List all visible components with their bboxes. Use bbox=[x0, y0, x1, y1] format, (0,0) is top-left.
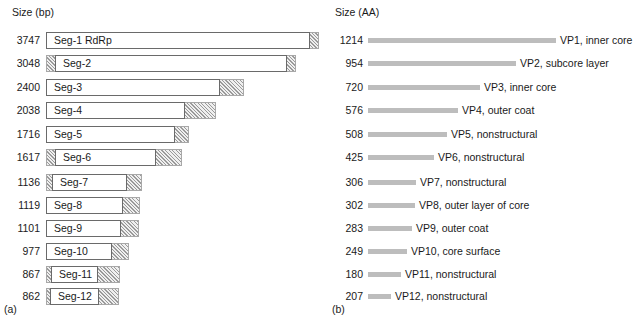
segment-row: 3747Seg-1 RdRp bbox=[0, 30, 330, 50]
protein-name-label: VP4, outer coat bbox=[462, 105, 534, 116]
segment-name-label: Seg-2 bbox=[56, 58, 91, 69]
segment-name-label: Seg-1 RdRp bbox=[47, 35, 112, 46]
protein-row: 425VP6, nonstructural bbox=[330, 147, 634, 167]
protein-name-label: VP6, nonstructural bbox=[438, 152, 524, 163]
segment-bar: Seg-9 bbox=[46, 220, 139, 237]
segment-utr-right bbox=[310, 32, 319, 49]
segment-name-label: Seg-7 bbox=[53, 177, 88, 188]
segment-utr-right bbox=[156, 149, 182, 166]
segment-row: 1617Seg-6 bbox=[0, 147, 330, 167]
segment-size-label: 3048 bbox=[0, 58, 40, 69]
segment-bar: Seg-7 bbox=[46, 174, 142, 191]
segment-utr-right bbox=[98, 266, 120, 283]
segment-orf: Seg-11 bbox=[51, 266, 98, 283]
protein-name-label: VP5, nonstructural bbox=[451, 129, 537, 140]
segment-orf: Seg-8 bbox=[46, 197, 123, 214]
segment-row: 1119Seg-8 bbox=[0, 195, 330, 215]
segment-name-label: Seg-8 bbox=[47, 200, 82, 211]
segment-utr-right bbox=[185, 102, 216, 119]
panel-a-genome-segments: Size (bp) 3747Seg-1 RdRp3048Seg-22400Seg… bbox=[0, 0, 330, 324]
segment-row: 2400Seg-3 bbox=[0, 77, 330, 97]
segment-row: 862Seg-12 bbox=[0, 286, 330, 306]
segment-row: 867Seg-11 bbox=[0, 264, 330, 284]
protein-name-label: VP7, nonstructural bbox=[420, 177, 506, 188]
protein-row: 306VP7, nonstructural bbox=[330, 172, 634, 192]
protein-size-label: 576 bbox=[330, 105, 363, 116]
protein-row: 283VP9, outer coat bbox=[330, 218, 634, 238]
segment-name-label: Seg-10 bbox=[47, 246, 88, 257]
segment-utr-right bbox=[220, 79, 244, 96]
protein-bar bbox=[368, 294, 391, 299]
protein-bar bbox=[368, 38, 556, 43]
segment-size-label: 1136 bbox=[0, 177, 40, 188]
segment-size-label: 3747 bbox=[0, 35, 40, 46]
protein-bar bbox=[368, 226, 412, 231]
segment-size-label: 2038 bbox=[0, 105, 40, 116]
protein-size-label: 249 bbox=[330, 246, 363, 257]
segment-size-label: 977 bbox=[0, 246, 40, 257]
segment-bar: Seg-12 bbox=[46, 288, 119, 305]
segment-orf: Seg-10 bbox=[46, 243, 112, 260]
protein-bar bbox=[368, 180, 416, 185]
protein-name-label: VP2, subcore layer bbox=[520, 58, 609, 69]
protein-size-label: 720 bbox=[330, 82, 363, 93]
protein-row: 302VP8, outer layer of core bbox=[330, 195, 634, 215]
segment-bar: Seg-2 bbox=[46, 55, 296, 72]
protein-bar bbox=[368, 249, 407, 254]
segment-size-label: 867 bbox=[0, 269, 40, 280]
segment-orf: Seg-1 RdRp bbox=[46, 32, 310, 49]
segment-row: 1716Seg-5 bbox=[0, 124, 330, 144]
segment-utr-left bbox=[46, 55, 55, 72]
protein-size-label: 1214 bbox=[330, 35, 363, 46]
segment-bar: Seg-8 bbox=[46, 197, 140, 214]
segment-utr-right bbox=[287, 55, 296, 72]
protein-name-label: VP12, nonstructural bbox=[395, 291, 487, 302]
segment-size-label: 1617 bbox=[0, 152, 40, 163]
segment-bar: Seg-5 bbox=[46, 126, 189, 143]
segment-row: 977Seg-10 bbox=[0, 241, 330, 261]
protein-name-label: VP1, inner core bbox=[560, 35, 632, 46]
panel-b-proteins: Size (AA) 1214VP1, inner core954VP2, sub… bbox=[330, 0, 634, 324]
segment-bar: Seg-1 RdRp bbox=[46, 32, 319, 49]
protein-name-label: VP3, inner core bbox=[484, 82, 556, 93]
panel-b-caption: (b) bbox=[332, 303, 345, 315]
protein-row: 1214VP1, inner core bbox=[330, 30, 634, 50]
protein-bar bbox=[368, 108, 458, 113]
segment-row: 3048Seg-2 bbox=[0, 53, 330, 73]
segment-utr-right bbox=[127, 174, 142, 191]
segment-utr-left bbox=[46, 149, 55, 166]
protein-name-label: VP11, nonstructural bbox=[405, 269, 496, 280]
protein-row: 576VP4, outer coat bbox=[330, 100, 634, 120]
segment-size-label: 1101 bbox=[0, 223, 40, 234]
segment-bar: Seg-10 bbox=[46, 243, 129, 260]
segment-row: 1136Seg-7 bbox=[0, 172, 330, 192]
protein-bar bbox=[368, 203, 415, 208]
segment-bar: Seg-4 bbox=[46, 102, 216, 119]
panel-a-axis-title: Size (bp) bbox=[12, 6, 54, 18]
segment-orf: Seg-5 bbox=[46, 126, 175, 143]
protein-name-label: VP8, outer layer of core bbox=[419, 200, 529, 211]
protein-size-label: 425 bbox=[330, 152, 363, 163]
segment-name-label: Seg-5 bbox=[47, 129, 82, 140]
segment-bar: Seg-6 bbox=[46, 149, 182, 166]
protein-size-label: 302 bbox=[330, 200, 363, 211]
protein-size-label: 283 bbox=[330, 223, 363, 234]
segment-orf: Seg-7 bbox=[52, 174, 127, 191]
segment-utr-right bbox=[121, 220, 139, 237]
segment-name-label: Seg-11 bbox=[52, 269, 92, 280]
segment-bar: Seg-11 bbox=[46, 266, 120, 283]
segment-utr-right bbox=[175, 126, 189, 143]
panel-a-caption: (a) bbox=[4, 303, 17, 315]
protein-bar bbox=[368, 132, 447, 137]
panel-b-axis-title: Size (AA) bbox=[335, 6, 379, 18]
segment-orf: Seg-6 bbox=[55, 149, 156, 166]
protein-bar bbox=[368, 85, 480, 90]
segment-row: 1101Seg-9 bbox=[0, 218, 330, 238]
protein-row: 720VP3, inner core bbox=[330, 77, 634, 97]
protein-row: 508VP5, nonstructural bbox=[330, 124, 634, 144]
segment-row: 2038Seg-4 bbox=[0, 100, 330, 120]
protein-size-label: 508 bbox=[330, 129, 363, 140]
protein-size-label: 180 bbox=[330, 269, 363, 280]
segment-name-label: Seg-3 bbox=[47, 82, 82, 93]
segment-bar: Seg-3 bbox=[46, 79, 244, 96]
